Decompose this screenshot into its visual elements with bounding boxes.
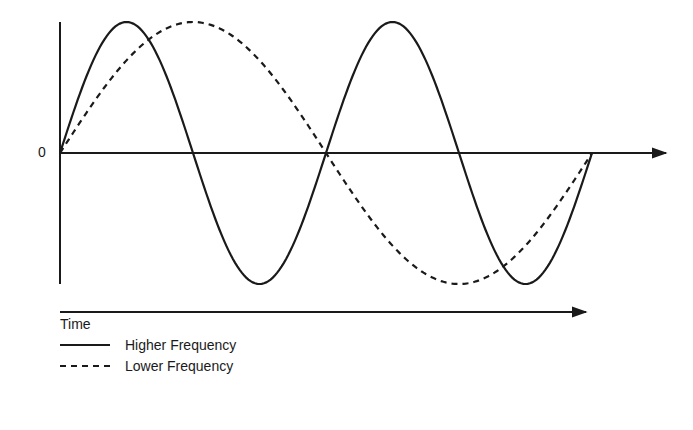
time-axis-label: Time bbox=[60, 316, 91, 332]
legend-item-lower-frequency: Lower Frequency bbox=[60, 357, 233, 375]
zero-tick-label: 0 bbox=[38, 144, 46, 160]
legend-label: Higher Frequency bbox=[125, 337, 236, 353]
dashed-line-icon bbox=[60, 365, 110, 367]
legend-item-higher-frequency: Higher Frequency bbox=[60, 336, 236, 354]
legend-label: Lower Frequency bbox=[125, 358, 233, 374]
solid-line-icon bbox=[60, 344, 110, 346]
